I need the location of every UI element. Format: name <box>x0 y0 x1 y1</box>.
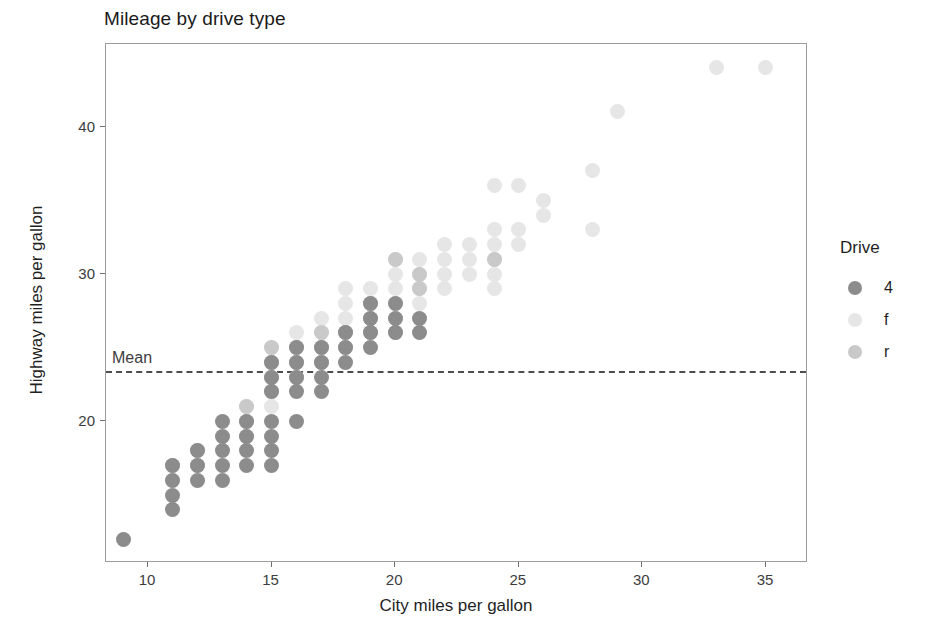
data-point <box>215 429 230 444</box>
data-point <box>536 193 551 208</box>
y-tick-label: 20 <box>78 412 95 429</box>
y-axis-title: Highway miles per gallon <box>27 160 47 440</box>
data-point <box>388 325 403 340</box>
data-point <box>215 473 230 488</box>
plot-panel: Mean <box>105 43 807 562</box>
data-point <box>511 237 526 252</box>
data-point <box>165 502 180 517</box>
data-point <box>487 222 502 237</box>
scatter-points-layer <box>106 44 806 561</box>
data-point <box>536 208 551 223</box>
x-tick-label: 25 <box>509 571 526 588</box>
data-point <box>264 340 279 355</box>
x-tick-mark <box>147 562 148 567</box>
y-tick-label: 30 <box>78 265 95 282</box>
legend-item-label: 4 <box>884 279 893 297</box>
data-point <box>289 384 304 399</box>
chart-title: Mileage by drive type <box>104 8 286 30</box>
x-tick-label: 10 <box>139 571 156 588</box>
y-tick-mark <box>100 273 105 274</box>
data-point <box>264 399 279 414</box>
data-point <box>338 311 353 326</box>
data-point <box>610 104 625 119</box>
x-tick-mark <box>394 562 395 567</box>
data-point <box>264 370 279 385</box>
data-point <box>388 281 403 296</box>
data-point <box>437 281 452 296</box>
data-point <box>487 178 502 193</box>
data-point <box>709 60 724 75</box>
data-point <box>215 414 230 429</box>
data-point <box>388 267 403 282</box>
data-point <box>388 311 403 326</box>
data-point <box>412 281 427 296</box>
data-point <box>165 473 180 488</box>
data-point <box>511 178 526 193</box>
legend-item-4[interactable]: 4 <box>840 272 926 304</box>
legend-key <box>840 281 870 295</box>
x-tick-label: 20 <box>386 571 403 588</box>
y-tick-label: 40 <box>78 117 95 134</box>
chart-canvas: Mileage by drive type Mean 101520253035 … <box>0 0 932 639</box>
data-point <box>314 384 329 399</box>
data-point <box>487 237 502 252</box>
data-point <box>412 267 427 282</box>
data-point <box>239 458 254 473</box>
legend-key <box>840 345 870 359</box>
legend-entries: 4fr <box>840 272 926 368</box>
x-tick-mark <box>518 562 519 567</box>
data-point <box>511 222 526 237</box>
data-point <box>388 252 403 267</box>
data-point <box>412 325 427 340</box>
x-tick-mark <box>765 562 766 567</box>
data-point <box>487 267 502 282</box>
data-point <box>412 252 427 267</box>
data-point <box>289 355 304 370</box>
data-point <box>264 384 279 399</box>
legend-swatch-circle-icon <box>848 313 862 327</box>
data-point <box>363 311 378 326</box>
data-point <box>363 340 378 355</box>
mean-annotation-label: Mean <box>112 349 152 367</box>
data-point <box>239 429 254 444</box>
data-point <box>412 311 427 326</box>
data-point <box>314 325 329 340</box>
data-point <box>487 281 502 296</box>
legend-title: Drive <box>840 238 926 258</box>
y-tick-mark <box>100 126 105 127</box>
data-point <box>314 340 329 355</box>
data-point <box>338 296 353 311</box>
legend-item-f[interactable]: f <box>840 304 926 336</box>
legend-item-r[interactable]: r <box>840 336 926 368</box>
data-point <box>338 355 353 370</box>
x-tick-label: 30 <box>633 571 650 588</box>
data-point <box>462 237 477 252</box>
data-point <box>239 443 254 458</box>
data-point <box>264 414 279 429</box>
legend-swatch-circle-icon <box>848 345 862 359</box>
data-point <box>314 355 329 370</box>
data-point <box>585 222 600 237</box>
data-point <box>289 370 304 385</box>
data-point <box>437 237 452 252</box>
data-point <box>388 296 403 311</box>
x-tick-label: 35 <box>757 571 774 588</box>
data-point <box>289 325 304 340</box>
data-point <box>239 399 254 414</box>
data-point <box>264 443 279 458</box>
data-point <box>190 458 205 473</box>
legend-item-label: r <box>884 343 889 361</box>
data-point <box>437 267 452 282</box>
x-tick-label: 15 <box>262 571 279 588</box>
data-point <box>264 429 279 444</box>
data-point <box>165 488 180 503</box>
data-point <box>289 340 304 355</box>
data-point <box>363 325 378 340</box>
data-point <box>116 532 131 547</box>
y-tick-mark <box>100 420 105 421</box>
data-point <box>363 296 378 311</box>
legend-key <box>840 313 870 327</box>
data-point <box>487 252 502 267</box>
data-point <box>165 458 180 473</box>
data-point <box>314 311 329 326</box>
